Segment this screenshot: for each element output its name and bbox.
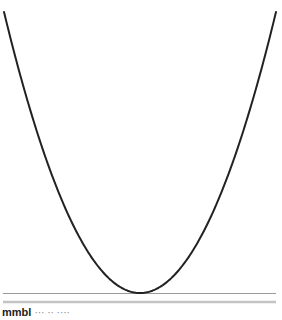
caption-rest: ··· ·· ···· xyxy=(34,307,70,318)
series-line-parabola xyxy=(4,12,276,293)
caption-bold: mmbl xyxy=(2,306,31,318)
caption-text: mmbl ··· ·· ···· xyxy=(2,305,70,320)
series-layer xyxy=(4,12,276,293)
